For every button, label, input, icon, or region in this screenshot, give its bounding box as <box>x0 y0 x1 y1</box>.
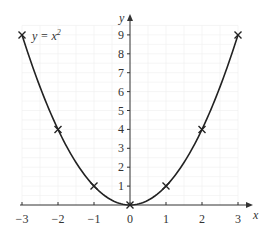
y-arrow-icon <box>127 14 133 21</box>
x-tick-label: −2 <box>52 212 65 226</box>
parabola-chart: −3−2−10123123456789 y = x2 x y <box>0 0 269 235</box>
x-tick-label: −1 <box>88 212 101 226</box>
x-tick-label: 2 <box>199 212 205 226</box>
y-tick-label: 6 <box>118 85 124 99</box>
y-tick-label: 1 <box>118 179 124 193</box>
y-tick-label: 2 <box>118 160 124 174</box>
y-tick-label: 3 <box>118 141 124 155</box>
axes <box>20 14 253 208</box>
x-tick-label: 1 <box>163 212 169 226</box>
y-tick-label: 9 <box>118 28 124 42</box>
x-axis-label: x <box>252 208 259 222</box>
x-tick-label: 3 <box>235 212 241 226</box>
y-axis-label: y <box>118 11 125 25</box>
y-tick-label: 8 <box>118 47 124 61</box>
x-tick-label: −3 <box>16 212 29 226</box>
equation-label: y = x2 <box>31 28 61 43</box>
y-tick-label: 5 <box>118 104 124 118</box>
x-tick-label: 0 <box>127 212 133 226</box>
tick-labels: −3−2−10123123456789 <box>16 28 241 226</box>
y-tick-label: 7 <box>118 66 124 80</box>
x-arrow-icon <box>246 202 253 208</box>
y-tick-label: 4 <box>118 122 124 136</box>
